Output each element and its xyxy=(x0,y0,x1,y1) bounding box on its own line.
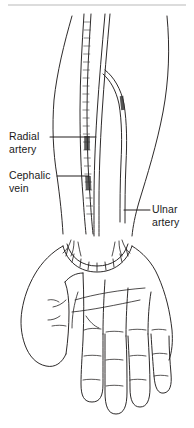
cephalic-vein-edge-right xyxy=(87,14,93,234)
radial-artery-edge-right xyxy=(99,14,110,236)
ulnar-artery-shading xyxy=(122,96,124,110)
thumb-web xyxy=(65,273,83,282)
label-cephalic-vein-line1: Cephalic xyxy=(9,169,51,181)
label-radial-artery: Radial artery xyxy=(9,130,39,155)
label-radial-artery-line1: Radial xyxy=(9,130,39,142)
wrist-crease-ticks xyxy=(66,248,128,271)
wrist-crease-inner xyxy=(67,244,128,266)
label-cephalic-vein-line2: vein xyxy=(9,182,51,195)
label-ulnar-artery-line1: Ulnar xyxy=(152,203,178,215)
label-cephalic-vein: Cephalic vein xyxy=(9,169,51,194)
label-ulnar-artery: Ulnar artery xyxy=(152,203,179,228)
finger-middle xyxy=(103,280,127,414)
cephalic-vein-edge-left xyxy=(80,14,86,234)
palm-creases xyxy=(48,288,145,328)
anatomy-figure: Radial artery Cephalic vein Ulnar artery xyxy=(0,0,194,428)
thumb-outline xyxy=(65,282,69,354)
palm-left-outline xyxy=(21,246,66,366)
radial-artery-edge-left xyxy=(94,14,105,236)
label-radial-artery-line2: artery xyxy=(9,143,39,156)
finger-ring xyxy=(126,288,150,407)
label-ulnar-artery-line2: artery xyxy=(152,216,179,229)
finger-index xyxy=(81,273,103,402)
forearm-left-outline xyxy=(53,16,72,234)
palm-right-outline xyxy=(132,246,172,360)
ulnar-artery-branch-left xyxy=(103,74,122,222)
